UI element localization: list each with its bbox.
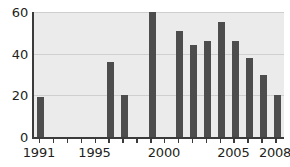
x-axis-tick-label: 2008 xyxy=(259,146,290,159)
x-axis-tick xyxy=(95,137,97,143)
x-axis-tick xyxy=(150,137,152,143)
y-axis-tick-label: 0 xyxy=(20,131,28,144)
bar xyxy=(37,97,44,137)
bar xyxy=(149,12,156,137)
gridline xyxy=(34,54,284,55)
x-axis-labels: 19911995200020052008 xyxy=(0,146,290,167)
x-axis-ticks xyxy=(32,137,284,144)
x-axis-tick-label: 1991 xyxy=(23,146,55,159)
x-axis-tick xyxy=(164,137,166,143)
bar xyxy=(260,75,267,138)
bar xyxy=(246,58,253,137)
x-axis-tick-label: 1995 xyxy=(78,146,110,159)
x-axis-tick xyxy=(275,137,277,143)
gridline xyxy=(34,12,284,13)
bar xyxy=(274,95,281,137)
bar xyxy=(176,31,183,137)
bar xyxy=(232,41,239,137)
x-axis-tick xyxy=(233,137,235,143)
x-axis-tick xyxy=(261,137,263,143)
x-axis-tick xyxy=(220,137,222,143)
y-axis-tick-label: 60 xyxy=(12,6,28,19)
x-axis-tick xyxy=(206,137,208,143)
bar xyxy=(190,45,197,137)
plot-inner xyxy=(34,12,284,137)
y-axis-tick-label: 20 xyxy=(12,89,28,102)
bar-chart: 0204060 19911995200020052008 xyxy=(0,0,290,167)
x-axis-tick xyxy=(53,137,55,143)
x-axis-tick xyxy=(247,137,249,143)
bar xyxy=(204,41,211,137)
bar xyxy=(107,62,114,137)
bar xyxy=(218,22,225,137)
x-axis-tick-label: 2000 xyxy=(148,146,180,159)
x-axis-tick xyxy=(122,137,124,143)
plot-area xyxy=(32,12,284,139)
x-axis-tick-label: 2005 xyxy=(217,146,249,159)
y-axis-tick-label: 40 xyxy=(12,47,28,60)
x-axis-tick xyxy=(178,137,180,143)
x-axis-tick xyxy=(67,137,69,143)
x-axis-tick xyxy=(81,137,83,143)
y-axis-labels: 0204060 xyxy=(0,0,30,167)
x-axis-tick xyxy=(192,137,194,143)
bar xyxy=(121,95,128,137)
x-axis-tick xyxy=(39,137,41,143)
x-axis-tick xyxy=(108,137,110,143)
x-axis-tick xyxy=(136,137,138,143)
